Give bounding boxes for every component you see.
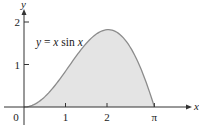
x-axis-arrow-icon: [186, 105, 192, 110]
x-tick-label: π: [152, 111, 158, 123]
function-label: y = x sin x: [35, 36, 84, 49]
x-tick-label: 0: [13, 111, 19, 123]
y-tick-label: 2: [15, 16, 21, 28]
y-tick-label: 1: [15, 59, 21, 71]
chart-figure: 012π12xyy = x sin x: [0, 0, 199, 133]
x-axis-label: x: [193, 100, 199, 112]
x-tick-label: 2: [104, 111, 110, 123]
chart-svg: 012π12xyy = x sin x: [0, 0, 199, 133]
x-tick-label: 1: [63, 111, 69, 123]
y-axis-label: y: [20, 0, 26, 10]
